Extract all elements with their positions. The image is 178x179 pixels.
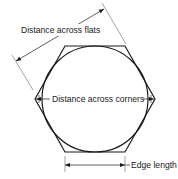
across-corners-label: Distance across corners — [52, 94, 144, 104]
hexagon-dimension-diagram: Distance across flats Distance across co… — [0, 0, 178, 179]
across-flats-label: Distance across flats — [21, 25, 100, 35]
flats-extension-line-left — [12, 55, 33, 90]
edge-length-label: Edge length — [131, 160, 177, 170]
flats-extension-line-right — [102, 3, 126, 44]
